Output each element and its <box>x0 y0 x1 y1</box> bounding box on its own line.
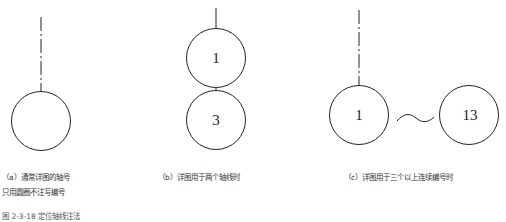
caption-a-line1: （a）通常详图的轴号 <box>2 171 70 182</box>
range-tilde-icon <box>397 115 434 122</box>
caption-c: （c）详图用于三个以上连续编号时 <box>344 171 453 182</box>
panel-b-drawing: 1 3 <box>187 8 246 150</box>
axis-number-b1: 1 <box>212 50 220 66</box>
panel-c-drawing: 1 13 <box>330 10 499 145</box>
caption-a-line2: 只用圆圈不注写编号 <box>2 186 65 197</box>
axis-number-c2: 13 <box>463 107 478 123</box>
axis-number-c1: 1 <box>355 107 363 123</box>
diagram-canvas: 1 3 1 13 <box>0 0 506 222</box>
axis-circle-a <box>12 92 71 151</box>
caption-b: （b）详图用于两个轴线时 <box>158 171 240 182</box>
axis-number-b2: 3 <box>212 112 220 128</box>
panel-a-drawing <box>12 17 71 151</box>
figure-title: 图 2-3-18 定位轴线注法 <box>2 210 80 221</box>
